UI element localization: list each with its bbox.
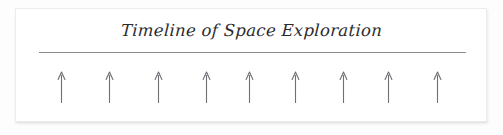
arrow-up-icon: [201, 71, 212, 103]
title-underline: [39, 52, 466, 53]
arrow-up-icon: [104, 71, 115, 103]
arrow-up-icon: [56, 71, 67, 103]
arrow-up-icon: [432, 71, 443, 103]
arrow-up-icon: [383, 71, 394, 103]
arrow-up-icon: [244, 71, 255, 103]
arrow-up-icon: [338, 71, 349, 103]
timeline-arrow-row: [16, 71, 488, 111]
page-root: Timeline of Space Exploration: [0, 0, 503, 135]
slide-title-row: Timeline of Space Exploration: [16, 20, 488, 42]
arrow-up-icon: [153, 71, 164, 103]
arrow-up-icon: [290, 71, 301, 103]
page-title: Timeline of Space Exploration: [121, 20, 383, 42]
slide-card: Timeline of Space Exploration: [15, 8, 487, 122]
